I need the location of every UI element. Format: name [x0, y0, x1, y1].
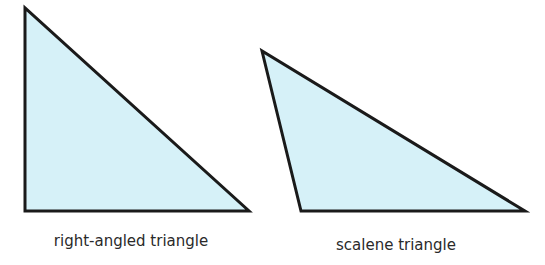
scalene-triangle-label: scalene triangle — [336, 236, 456, 254]
right-angled-triangle-label: right-angled triangle — [54, 232, 208, 250]
triangles-diagram — [0, 0, 545, 265]
right-angled-triangle-shape — [25, 8, 249, 211]
scalene-triangle-shape — [262, 51, 525, 211]
